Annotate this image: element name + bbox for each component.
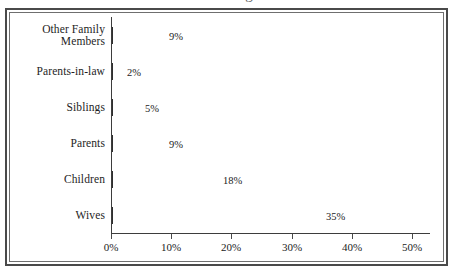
x-tick-label: 40% [342,241,362,253]
x-tick [292,234,293,239]
bar-value-label: 9% [169,138,183,149]
bar-fill [112,99,113,116]
x-tick-label: 50% [402,241,422,253]
x-tick-label: 0% [104,241,119,253]
x-tick-label: 30% [282,241,302,253]
bar-parents[interactable] [112,135,166,152]
bar-parents-in-law[interactable] [112,63,124,80]
category-label-wives: Wives [20,209,105,222]
x-tick [412,234,413,239]
bar-other-family-members[interactable] [112,27,166,44]
bar-children[interactable] [112,171,220,188]
category-label-parents: Parents [20,137,105,150]
bar-fill [112,135,113,152]
bar-value-label: 35% [326,210,345,221]
x-tick-label: 10% [161,241,181,253]
x-tick [171,234,172,239]
bar-fill [112,27,113,44]
category-label-siblings: Siblings [20,101,105,114]
bar-value-label: 5% [145,102,159,113]
bar-fill [112,207,113,224]
bar-fill [112,63,113,80]
bar-wives[interactable] [112,207,323,224]
bar-value-label: 9% [169,30,183,41]
category-label-other-family-members: Other Family Members [20,23,105,48]
x-tick-label: 20% [221,241,241,253]
bar-fill [112,171,113,188]
x-tick [352,234,353,239]
x-tick [231,234,232,239]
bar-chart-plot-area: WivesChildrenParentsSiblingsParents-in-l… [0,0,453,273]
bar-value-label: 2% [127,66,141,77]
bar-value-label: 18% [223,174,242,185]
x-tick [111,234,112,239]
bar-siblings[interactable] [112,99,142,116]
category-axis-line [111,17,112,234]
category-label-children: Children [20,173,105,186]
category-label-parents-in-law: Parents-in-law [20,65,105,78]
percentage-axis-line [111,233,430,234]
